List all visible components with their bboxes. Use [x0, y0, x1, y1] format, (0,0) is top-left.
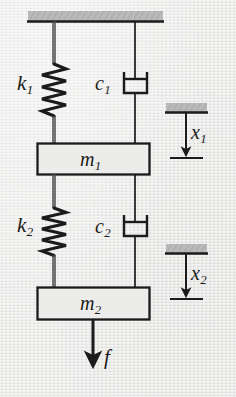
label-mass-m2: m2	[80, 293, 101, 317]
schematic-drawing	[0, 0, 236, 397]
label-mass-m2-subscript: 2	[94, 303, 101, 317]
label-spring-k2-subscript: 2	[26, 224, 33, 239]
spring-k2	[42, 174, 66, 288]
label-mass-m1: m1	[80, 149, 101, 173]
label-mass-m1-subscript: 1	[94, 159, 101, 173]
label-displacement-x1: x1	[191, 122, 207, 146]
label-mass-m1-symbol: m	[80, 148, 94, 170]
label-force-f: f	[104, 347, 110, 368]
label-damper-c2-subscript: 2	[104, 226, 111, 240]
label-force-f-symbol: f	[104, 345, 110, 369]
fixed-support-ceiling	[27, 11, 164, 22]
label-displacement-x2-symbol: x	[191, 262, 200, 284]
label-spring-k2: k2	[17, 215, 33, 238]
label-spring-k1: k1	[17, 73, 33, 96]
label-damper-c1-symbol: c	[95, 72, 104, 94]
label-mass-m2-symbol: m	[80, 292, 94, 314]
label-damper-c1-subscript: 1	[104, 83, 111, 97]
label-damper-c2-symbol: c	[95, 215, 104, 237]
label-displacement-x1-symbol: x	[191, 121, 200, 143]
label-spring-k1-subscript: 1	[26, 82, 33, 97]
label-displacement-x2: x2	[191, 263, 207, 287]
label-damper-c1: c1	[95, 73, 111, 97]
dashpot-c2	[124, 174, 147, 288]
dashpot-c1	[124, 21, 147, 144]
label-damper-c2: c2	[95, 216, 111, 240]
label-spring-k2-symbol: k	[17, 213, 26, 237]
spring-k1	[42, 21, 66, 144]
label-spring-k1-symbol: k	[17, 71, 26, 95]
label-displacement-x1-subscript: 1	[200, 132, 207, 146]
label-displacement-x2-subscript: 2	[200, 273, 207, 287]
figure-root: k1 c1 m1 k2 c2 m2 x1 x2 f	[0, 0, 236, 397]
